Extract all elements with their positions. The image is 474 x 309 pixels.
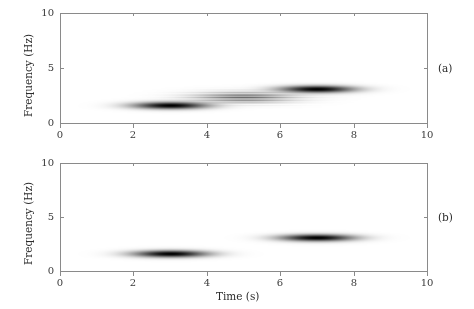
xtick-b-8	[354, 272, 355, 276]
yticklabel-b-5: 5	[40, 212, 54, 222]
ytick-b-10	[60, 163, 64, 164]
xtick-b-10	[427, 272, 428, 276]
tfd-image-b	[61, 164, 427, 271]
figure-root: 0 5 10 0 2 4 6 8 10 Frequency (Hz) (a)	[0, 0, 474, 309]
xticklabel-b-4: 4	[204, 278, 210, 288]
xticklabel-b-0: 0	[57, 278, 63, 288]
xtick-b-4	[207, 272, 208, 276]
xticklabel-b-8: 8	[351, 278, 357, 288]
yticklabel-b-10: 10	[34, 158, 54, 168]
ytick-b-5	[60, 217, 64, 218]
xtick-b-top-2	[133, 163, 134, 166]
xticklabel-b-10: 10	[421, 278, 434, 288]
xticklabel-b-6: 6	[277, 278, 283, 288]
xtick-b-0	[60, 272, 61, 276]
right-tick-b	[424, 217, 428, 218]
xticklabel-b-2: 2	[130, 278, 136, 288]
panel-label-b: (b)	[438, 211, 453, 223]
xtick-b-top-8	[354, 163, 355, 166]
xaxis-title: Time (s)	[216, 290, 259, 302]
xtick-b-top-4	[207, 163, 208, 166]
yaxis-title-b: Frequency (Hz)	[22, 182, 34, 265]
xtick-b-2	[133, 272, 134, 276]
panel-b: 0 5 10 0 2 4 6 8 10 Frequency (Hz) Time …	[0, 0, 474, 309]
plot-area-b	[60, 163, 428, 272]
xtick-b-6	[280, 272, 281, 276]
xtick-b-top-6	[280, 163, 281, 166]
yticklabel-b-0: 0	[40, 266, 54, 276]
